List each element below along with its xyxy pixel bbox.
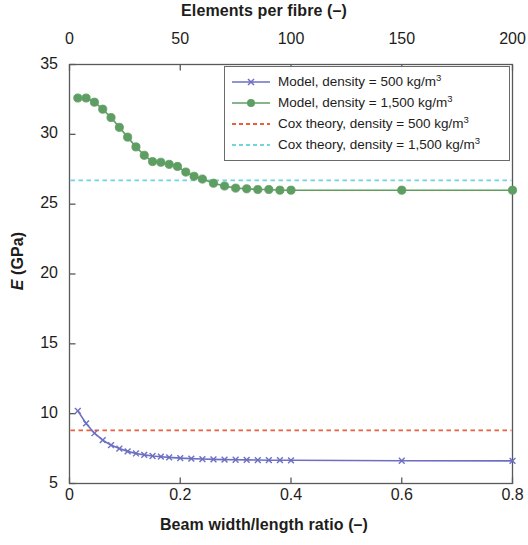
data-marker	[100, 437, 106, 443]
data-marker	[99, 105, 107, 113]
data-marker	[243, 185, 251, 193]
data-marker	[83, 421, 89, 427]
data-marker	[124, 133, 132, 141]
legend-label: Cox theory, density = 500 kg/m3	[278, 117, 469, 131]
data-marker	[75, 408, 81, 414]
x-tick-label-top: 50	[150, 30, 210, 48]
x-tick-label: 0.8	[483, 486, 528, 504]
data-marker	[148, 157, 156, 165]
legend-item: Cox theory, density = 500 kg/m3	[231, 113, 503, 134]
legend-label: Model, density = 1,500 kg/m3	[278, 96, 453, 110]
data-marker	[157, 158, 165, 166]
data-marker	[198, 175, 206, 183]
y-tick-label: 35	[18, 55, 58, 73]
x-tick-label-top: 100	[261, 30, 321, 48]
x-tick-label-top: 150	[372, 30, 432, 48]
data-marker	[165, 160, 173, 168]
data-marker	[74, 94, 82, 102]
x-tick-label-top: 0	[40, 30, 100, 48]
legend-swatch	[231, 75, 271, 89]
y-tick-label: 10	[18, 404, 58, 422]
data-marker	[220, 182, 228, 190]
data-marker	[140, 151, 148, 159]
data-marker	[173, 162, 181, 170]
x-tick-label: 0.4	[261, 486, 321, 504]
y-tick-label: 30	[18, 124, 58, 142]
data-marker	[82, 94, 90, 102]
data-marker	[107, 113, 115, 121]
data-marker	[190, 172, 198, 180]
legend-item: Model, density = 500 kg/m3	[231, 71, 503, 92]
y-tick-label: 15	[18, 334, 58, 352]
x-tick-label: 0.2	[150, 486, 210, 504]
data-marker	[398, 186, 406, 194]
data-marker	[115, 123, 123, 131]
legend-swatch	[231, 117, 271, 131]
legend: Model, density = 500 kg/m3Model, density…	[224, 66, 510, 161]
data-marker	[508, 186, 516, 194]
data-marker	[254, 185, 262, 193]
legend-item: Model, density = 1,500 kg/m3	[231, 92, 503, 113]
x-tick-label-top: 200	[483, 30, 528, 48]
legend-swatch	[231, 138, 271, 152]
x-tick-label: 0.6	[372, 486, 432, 504]
data-marker	[232, 184, 240, 192]
chart-figure: Elements per fibre (–) Beam width/length…	[0, 0, 528, 545]
data-marker	[92, 430, 98, 436]
data-marker	[265, 185, 273, 193]
y-tick-label: 20	[18, 264, 58, 282]
data-marker	[209, 179, 217, 187]
y-tick-label: 5	[18, 474, 58, 492]
data-marker	[132, 143, 140, 151]
y-tick-label: 25	[18, 194, 58, 212]
data-marker	[90, 98, 98, 106]
data-marker	[276, 186, 284, 194]
legend-label: Model, density = 500 kg/m3	[278, 75, 441, 89]
data-marker	[287, 186, 295, 194]
legend-label: Cox theory, density = 1,500 kg/m3	[278, 138, 480, 152]
legend-item: Cox theory, density = 1,500 kg/m3	[231, 134, 503, 155]
legend-swatch	[231, 96, 271, 110]
data-marker	[182, 168, 190, 176]
